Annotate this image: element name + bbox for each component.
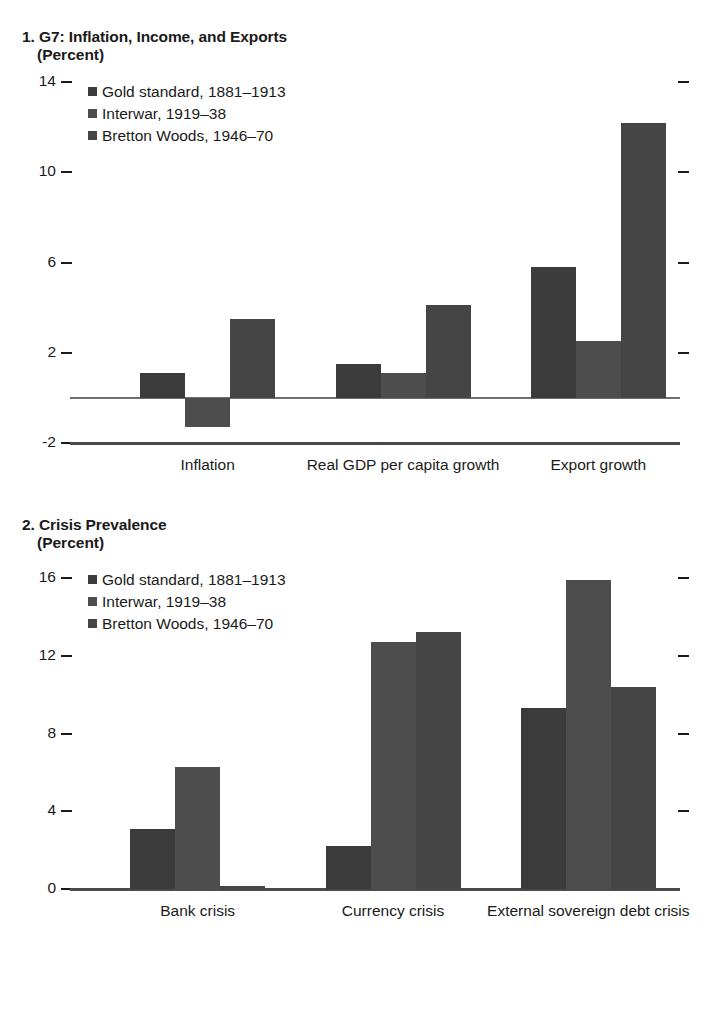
y-axis-tick-mark — [61, 81, 72, 83]
legend-swatch-icon — [88, 109, 97, 118]
bar — [426, 305, 471, 398]
bar — [175, 767, 220, 889]
y-axis-tick-label: 8 — [16, 725, 56, 740]
y-axis-tick-mark-right — [678, 810, 689, 812]
y-axis-tick-mark-right — [678, 81, 689, 83]
legend-label: Bretton Woods, 1946–70 — [102, 615, 273, 632]
legend-swatch-icon — [88, 619, 97, 628]
legend-label: Interwar, 1919–38 — [102, 105, 226, 122]
y-axis-tick-mark-right — [678, 733, 689, 735]
y-axis-tick-mark-right — [678, 352, 689, 354]
y-axis-tick-mark — [61, 733, 72, 735]
legend-label: Interwar, 1919–38 — [102, 593, 226, 610]
y-axis-tick-label: 12 — [16, 647, 56, 662]
y-axis-tick-mark-right — [678, 262, 689, 264]
y-axis-tick-mark — [61, 171, 72, 173]
y-axis-tick-label: 0 — [16, 880, 56, 895]
y-axis-tick-mark — [61, 262, 72, 264]
y-axis-tick-label: 4 — [16, 802, 56, 817]
bar — [326, 846, 371, 889]
bar — [230, 319, 275, 398]
legend-label: Bretton Woods, 1946–70 — [102, 127, 273, 144]
y-axis-tick-label: -2 — [16, 434, 56, 449]
bar — [531, 267, 576, 398]
bar — [336, 364, 381, 398]
bar — [185, 398, 230, 427]
y-axis-tick-mark-right — [678, 171, 689, 173]
y-axis-tick-label: 6 — [16, 254, 56, 269]
y-axis-tick-mark-right — [678, 655, 689, 657]
chart-panel-1: 1. G7: Inflation, Income, and Exports (P… — [0, 0, 718, 505]
legend-item: Interwar, 1919–38 — [88, 102, 286, 124]
bar — [621, 123, 666, 398]
bar — [566, 580, 611, 889]
y-axis-tick-mark — [61, 810, 72, 812]
bar — [576, 341, 621, 397]
panel-2-legend: Gold standard, 1881–1913 Interwar, 1919–… — [88, 568, 286, 634]
legend-label: Gold standard, 1881–1913 — [102, 83, 286, 100]
y-axis-tick-mark — [61, 655, 72, 657]
legend-item: Bretton Woods, 1946–70 — [88, 612, 286, 634]
y-axis-tick-label: 2 — [16, 344, 56, 359]
panel-1-plot: 141062-2InflationReal GDP per capita gro… — [0, 0, 718, 505]
bar — [140, 373, 185, 398]
bar — [220, 886, 265, 889]
y-axis-tick-mark — [61, 352, 72, 354]
legend-swatch-icon — [88, 575, 97, 584]
legend-item: Bretton Woods, 1946–70 — [88, 124, 286, 146]
panel-1-legend: Gold standard, 1881–1913 Interwar, 1919–… — [88, 80, 286, 146]
x-axis-category-label: Export growth — [481, 455, 716, 474]
bar — [130, 829, 175, 889]
legend-swatch-icon — [88, 597, 97, 606]
legend-label: Gold standard, 1881–1913 — [102, 571, 286, 588]
y-axis-tick-label: 14 — [16, 73, 56, 88]
bar — [521, 708, 566, 889]
bar — [381, 373, 426, 398]
bar — [416, 632, 461, 889]
y-axis-tick-mark — [61, 577, 72, 579]
y-axis-tick-mark-right — [678, 577, 689, 579]
x-axis-category-label: External sovereign debt crisis — [471, 901, 706, 920]
axis-baseline — [70, 442, 680, 445]
y-axis-tick-label: 10 — [16, 163, 56, 178]
legend-swatch-icon — [88, 87, 97, 96]
legend-swatch-icon — [88, 131, 97, 140]
legend-item: Gold standard, 1881–1913 — [88, 568, 286, 590]
bar — [611, 687, 656, 889]
legend-item: Interwar, 1919–38 — [88, 590, 286, 612]
bar — [371, 642, 416, 889]
legend-item: Gold standard, 1881–1913 — [88, 80, 286, 102]
y-axis-tick-label: 16 — [16, 569, 56, 584]
chart-panel-2: 2. Crisis Prevalence (Percent) 1612840Ba… — [0, 505, 718, 1033]
